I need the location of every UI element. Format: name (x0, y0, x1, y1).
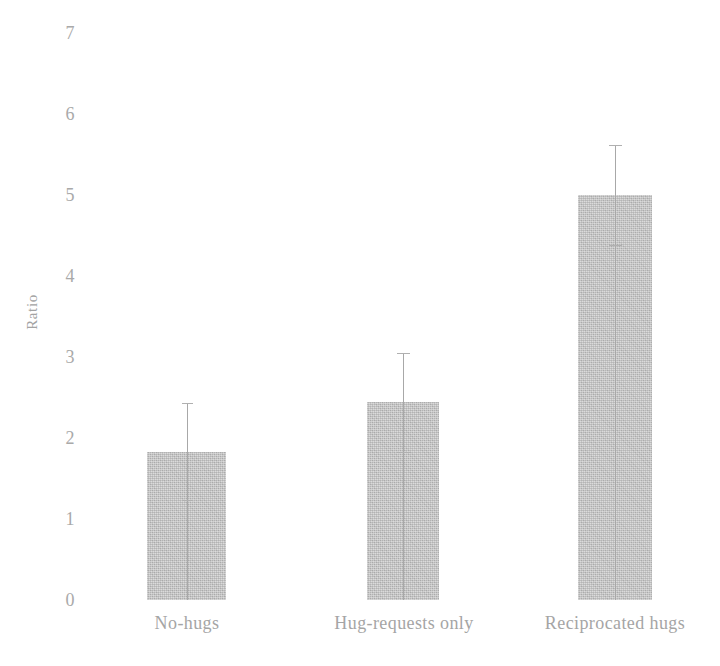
error-cap-top-hug-requests-only (397, 353, 410, 354)
error-cap-bottom-hug-requests-only (397, 452, 410, 453)
chart-canvas: Ratio 0 1 2 3 4 5 6 7 No-hugs Hug-reques… (0, 0, 720, 666)
error-bar-reciprocated-hugs (615, 145, 616, 600)
error-cap-top-reciprocated-hugs (609, 145, 622, 146)
x-tick-reciprocated-hugs: Reciprocated hugs (545, 613, 685, 634)
y-tick-5: 5 (35, 186, 75, 204)
y-tick-1: 1 (35, 510, 75, 528)
error-bar-no-hugs (187, 403, 188, 600)
error-cap-bottom-reciprocated-hugs (609, 245, 622, 246)
y-tick-0: 0 (35, 591, 75, 609)
plot-area: Ratio 0 1 2 3 4 5 6 7 No-hugs Hug-reques… (0, 0, 720, 666)
y-tick-2: 2 (35, 429, 75, 447)
y-tick-4: 4 (35, 267, 75, 285)
y-tick-7: 7 (35, 24, 75, 42)
y-axis-tick-labels: 0 1 2 3 4 5 6 7 (20, 0, 75, 666)
error-bar-hug-requests-only (403, 353, 404, 600)
error-cap-top-no-hugs (182, 403, 193, 404)
y-tick-3: 3 (35, 348, 75, 366)
x-tick-hug-requests-only: Hug-requests only (334, 613, 473, 634)
x-tick-no-hugs: No-hugs (155, 613, 220, 634)
y-tick-6: 6 (35, 105, 75, 123)
error-cap-bottom-no-hugs (182, 500, 193, 501)
